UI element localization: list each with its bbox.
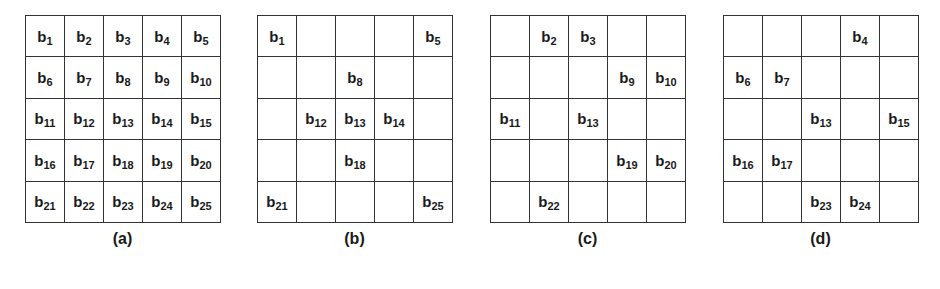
block-b14: b14 bbox=[375, 99, 414, 140]
block-label: b22 bbox=[538, 193, 559, 210]
block-label: b20 bbox=[190, 152, 211, 169]
empty-cell bbox=[375, 57, 414, 98]
block-label: b14 bbox=[383, 110, 404, 127]
empty-cell bbox=[569, 140, 608, 181]
block-b25: b25 bbox=[414, 182, 453, 223]
block-label: b18 bbox=[112, 152, 133, 169]
block-index: 16 bbox=[43, 159, 55, 171]
block-index: 5 bbox=[435, 35, 441, 47]
block-label: b3 bbox=[115, 28, 130, 45]
caption-d: (d) bbox=[723, 230, 918, 248]
block-b6: b6 bbox=[724, 57, 763, 98]
block-b16: b16 bbox=[724, 140, 763, 181]
block-index: 9 bbox=[629, 76, 635, 88]
block-index: 19 bbox=[160, 159, 172, 171]
block-b9: b9 bbox=[143, 57, 182, 98]
caption-a: (a) bbox=[25, 230, 220, 248]
block-index: 24 bbox=[858, 200, 870, 212]
empty-cell bbox=[491, 140, 530, 181]
block-label: b22 bbox=[73, 193, 94, 210]
block-index: 20 bbox=[664, 159, 676, 171]
block-label: b24 bbox=[849, 193, 870, 210]
panel-c: b2b3b9b10b11b13b19b20b22 bbox=[490, 15, 685, 223]
block-b2: b2 bbox=[530, 16, 569, 57]
block-b21: b21 bbox=[258, 182, 297, 223]
empty-cell bbox=[880, 140, 919, 181]
block-label: b8 bbox=[115, 69, 130, 86]
block-label: b7 bbox=[774, 69, 789, 86]
empty-cell bbox=[297, 16, 336, 57]
block-b20: b20 bbox=[647, 140, 686, 181]
empty-cell bbox=[530, 99, 569, 140]
block-label: b3 bbox=[580, 28, 595, 45]
empty-cell bbox=[258, 140, 297, 181]
block-b24: b24 bbox=[143, 182, 182, 223]
empty-cell bbox=[336, 182, 375, 223]
block-label: b17 bbox=[771, 152, 792, 169]
block-label: b19 bbox=[151, 152, 172, 169]
empty-cell bbox=[608, 16, 647, 57]
block-b25: b25 bbox=[182, 182, 221, 223]
caption-b: (b) bbox=[257, 230, 452, 248]
block-index: 3 bbox=[590, 35, 596, 47]
block-b2: b2 bbox=[65, 16, 104, 57]
block-label: b5 bbox=[193, 28, 208, 45]
empty-cell bbox=[880, 16, 919, 57]
block-index: 18 bbox=[121, 159, 133, 171]
grid-b: b1b5b8b12b13b14b18b21b25 bbox=[257, 15, 453, 223]
block-index: 4 bbox=[164, 35, 170, 47]
empty-cell bbox=[375, 140, 414, 181]
block-b12: b12 bbox=[297, 99, 336, 140]
empty-cell bbox=[375, 16, 414, 57]
block-label: b6 bbox=[37, 69, 52, 86]
empty-cell bbox=[763, 182, 802, 223]
empty-cell bbox=[841, 140, 880, 181]
empty-cell bbox=[530, 140, 569, 181]
block-index: 13 bbox=[819, 117, 831, 129]
block-index: 14 bbox=[160, 117, 172, 129]
block-b5: b5 bbox=[414, 16, 453, 57]
empty-cell bbox=[297, 182, 336, 223]
empty-cell bbox=[802, 16, 841, 57]
block-label: b15 bbox=[190, 110, 211, 127]
empty-cell bbox=[647, 16, 686, 57]
empty-cell bbox=[802, 140, 841, 181]
grid-a: b1b2b3b4b5b6b7b8b9b10b11b12b13b14b15b16b… bbox=[25, 15, 221, 223]
block-index: 4 bbox=[862, 35, 868, 47]
block-index: 18 bbox=[353, 159, 365, 171]
empty-cell bbox=[763, 99, 802, 140]
empty-cell bbox=[724, 182, 763, 223]
block-index: 24 bbox=[160, 200, 172, 212]
block-index: 6 bbox=[745, 76, 751, 88]
block-label: b21 bbox=[34, 193, 55, 210]
block-index: 15 bbox=[199, 117, 211, 129]
block-b3: b3 bbox=[104, 16, 143, 57]
block-index: 10 bbox=[199, 76, 211, 88]
block-label: b2 bbox=[541, 28, 556, 45]
block-label: b13 bbox=[577, 110, 598, 127]
empty-cell bbox=[880, 182, 919, 223]
empty-cell bbox=[569, 182, 608, 223]
block-label: b4 bbox=[852, 28, 867, 45]
empty-cell bbox=[763, 16, 802, 57]
block-b13: b13 bbox=[802, 99, 841, 140]
empty-cell bbox=[375, 182, 414, 223]
block-index: 19 bbox=[625, 159, 637, 171]
block-b13: b13 bbox=[569, 99, 608, 140]
empty-cell bbox=[841, 57, 880, 98]
block-b14: b14 bbox=[143, 99, 182, 140]
block-label: b4 bbox=[154, 28, 169, 45]
block-index: 7 bbox=[86, 76, 92, 88]
block-label: b25 bbox=[190, 193, 211, 210]
block-label: b20 bbox=[655, 152, 676, 169]
block-b10: b10 bbox=[182, 57, 221, 98]
empty-cell bbox=[491, 16, 530, 57]
block-label: b9 bbox=[154, 69, 169, 86]
block-label: b19 bbox=[616, 152, 637, 169]
block-index: 12 bbox=[314, 117, 326, 129]
block-label: b12 bbox=[73, 110, 94, 127]
empty-cell bbox=[491, 182, 530, 223]
block-label: b13 bbox=[344, 110, 365, 127]
block-index: 3 bbox=[125, 35, 131, 47]
empty-cell bbox=[414, 99, 453, 140]
